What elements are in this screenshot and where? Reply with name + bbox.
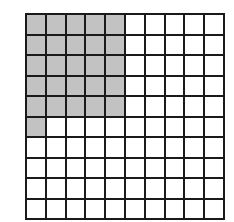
grid-cell	[85, 158, 105, 179]
grid-cell	[66, 158, 86, 179]
grid-cell-shaded	[66, 96, 86, 117]
grid-cell	[105, 137, 125, 158]
grid-cell-shaded	[46, 14, 66, 35]
grid-cell-shaded	[66, 14, 86, 35]
grid-cell	[145, 96, 165, 117]
grid-cell	[145, 55, 165, 76]
grid-cell	[125, 137, 145, 158]
grid-cell-shaded	[85, 76, 105, 97]
grid-cell	[145, 158, 165, 179]
grid-cell	[184, 199, 204, 220]
grid-cell	[145, 35, 165, 56]
grid-cell-shaded	[66, 76, 86, 97]
grid-cell	[46, 117, 66, 138]
grid-cell	[165, 137, 185, 158]
grid-cell	[66, 178, 86, 199]
grid-cell	[85, 137, 105, 158]
grid-cell	[26, 158, 46, 179]
hundred-grid	[25, 13, 225, 220]
grid-cell-shaded	[66, 35, 86, 56]
grid-cell-shaded	[85, 96, 105, 117]
grid-cell	[125, 55, 145, 76]
grid-cell-shaded	[46, 55, 66, 76]
grid-cell	[66, 137, 86, 158]
grid-cell	[184, 14, 204, 35]
grid-cell	[165, 76, 185, 97]
grid-cell	[105, 178, 125, 199]
grid-cell-shaded	[26, 35, 46, 56]
grid-cell-shaded	[26, 76, 46, 97]
grid-cell	[204, 158, 224, 179]
grid-cell	[46, 199, 66, 220]
grid-cell	[105, 199, 125, 220]
grid-cell-shaded	[46, 96, 66, 117]
grid-cell	[184, 96, 204, 117]
grid-cell	[125, 14, 145, 35]
grid-cell	[204, 35, 224, 56]
grid-cell	[184, 55, 204, 76]
grid-cell	[105, 117, 125, 138]
grid-cell	[26, 137, 46, 158]
grid-cell-shaded	[66, 55, 86, 76]
grid-cell	[184, 158, 204, 179]
grid-cell	[165, 55, 185, 76]
grid-cell	[85, 178, 105, 199]
grid-cell	[204, 137, 224, 158]
grid-cell	[26, 178, 46, 199]
grid-cell	[184, 137, 204, 158]
grid-cell	[184, 76, 204, 97]
grid-cell	[165, 158, 185, 179]
grid-cell	[204, 117, 224, 138]
grid-cell	[204, 199, 224, 220]
grid-cell-shaded	[105, 55, 125, 76]
grid-cell-shaded	[105, 35, 125, 56]
grid-cell-shaded	[105, 76, 125, 97]
grid-cell	[66, 117, 86, 138]
grid-cell	[85, 199, 105, 220]
grid-cell	[165, 178, 185, 199]
grid-cell	[204, 55, 224, 76]
grid-cell	[26, 199, 46, 220]
grid-cell-shaded	[85, 14, 105, 35]
grid-cell	[165, 96, 185, 117]
grid-cell-shaded	[85, 35, 105, 56]
grid-cell-shaded	[105, 14, 125, 35]
grid-cell	[165, 117, 185, 138]
grid-cell	[204, 178, 224, 199]
grid-cell	[145, 178, 165, 199]
grid-cell	[165, 14, 185, 35]
grid-cell	[125, 158, 145, 179]
grid-cell	[125, 35, 145, 56]
grid-cell	[184, 117, 204, 138]
grid-cell	[125, 96, 145, 117]
grid-cell	[184, 178, 204, 199]
grid-cell	[105, 158, 125, 179]
grid-cell	[85, 117, 105, 138]
grid-cell-shaded	[46, 35, 66, 56]
grid-cell	[125, 76, 145, 97]
grid-cell	[145, 76, 165, 97]
grid-cell-shaded	[105, 96, 125, 117]
grid-cell	[66, 199, 86, 220]
grid-cell	[145, 137, 165, 158]
grid-cell-shaded	[26, 55, 46, 76]
grid-cell-shaded	[26, 96, 46, 117]
grid-cell	[145, 117, 165, 138]
grid-cell	[204, 76, 224, 97]
grid-cell	[46, 137, 66, 158]
grid-cell-shaded	[26, 117, 46, 138]
grid-cell-shaded	[85, 55, 105, 76]
grid-cell	[46, 158, 66, 179]
grid-cell	[204, 96, 224, 117]
grid-cell	[204, 14, 224, 35]
grid-cell	[46, 178, 66, 199]
grid-cell-shaded	[46, 76, 66, 97]
grid-cell	[145, 199, 165, 220]
grid-cell	[165, 199, 185, 220]
grid-cell	[125, 117, 145, 138]
grid-cell	[145, 14, 165, 35]
grid-cell	[184, 35, 204, 56]
grid-cell	[125, 178, 145, 199]
grid-cell-shaded	[26, 14, 46, 35]
grid-cell	[125, 199, 145, 220]
